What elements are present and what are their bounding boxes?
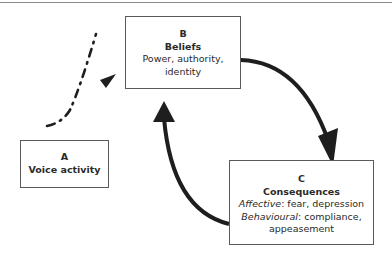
node-c-consequences: C Consequences Affective: fear, depressi… (229, 160, 374, 245)
node-a-voice-activity: A Voice activity (20, 140, 109, 188)
node-c-affective-line: Affective: fear, depression (230, 198, 373, 211)
node-a-title: Voice activity (21, 164, 108, 177)
arrow-a-to-b-head (100, 74, 116, 88)
node-c-last-line: appeasement (230, 223, 373, 236)
node-b-line-1: Power, authority, (126, 53, 240, 66)
node-c-behavioural-text: : compliance, (298, 211, 362, 222)
node-c-affective-text: : fear, depression (281, 198, 364, 209)
arrow-a-to-b (47, 34, 96, 126)
node-c-behavioural-label: Behavioural (241, 211, 298, 222)
node-c-title: Consequences (230, 186, 373, 199)
node-c-affective-label: Affective (239, 198, 281, 209)
node-a-letter: A (21, 151, 108, 164)
node-b-letter: B (126, 28, 240, 41)
node-c-behavioural-line: Behavioural: compliance, (230, 211, 373, 224)
arrow-b-to-c (241, 60, 328, 140)
arrow-c-to-b-head (153, 101, 175, 122)
arrow-c-to-b (164, 118, 229, 224)
node-c-letter: C (230, 173, 373, 186)
node-b-beliefs: B Beliefs Power, authority, identity (125, 16, 241, 89)
node-b-title: Beliefs (126, 41, 240, 54)
node-b-line-2: identity (126, 66, 240, 79)
